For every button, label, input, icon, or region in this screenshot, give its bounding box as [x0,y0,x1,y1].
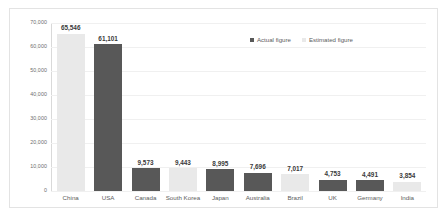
bar[interactable] [132,168,160,191]
bar-group-china: 65,546 [52,23,89,191]
bar-value-label: 4,491 [362,172,378,178]
legend-swatch-icon [302,38,306,42]
chart-container: 70,00060,00050,00040,00030,00020,00010,0… [9,8,438,208]
bar-value-label: 9,573 [138,160,154,166]
bar-value-label: 7,696 [250,164,266,170]
y-axis-tick-label: 0 [44,188,47,193]
bar-group-germany: 4,491 [351,23,388,191]
gridline [51,191,426,192]
bar-group-canada: 9,573 [127,23,164,191]
bar-series-group: 65,54661,1019,5739,4438,9957,6967,0174,7… [52,23,426,191]
bar-group-uk: 4,753 [314,23,351,191]
bar-group-japan: 8,995 [202,23,239,191]
legend-item-actual[interactable]: Actual figure [250,37,291,43]
bar-group-south-korea: 9,443 [164,23,201,191]
x-axis-label-usa: USA [89,195,126,201]
x-axis-label-uk: UK [314,195,351,201]
bar-value-label: 65,546 [61,25,81,31]
legend-swatch-icon [250,38,254,42]
x-axis-label-brazil: Brazil [276,195,313,201]
x-axis-category-labels: ChinaUSACanadaSouth KoreaJapanAustraliaB… [52,195,426,201]
bar[interactable] [319,180,347,191]
bar-value-label: 3,854 [399,173,415,179]
y-axis-tick-label: 70,000 [30,20,47,25]
y-axis-tick-label: 10,000 [30,164,47,169]
y-axis-tick-label: 20,000 [30,140,47,145]
x-axis-label-south-korea: South Korea [164,195,201,201]
bar[interactable] [206,169,234,191]
legend-item-estimated[interactable]: Estimated figure [302,37,353,43]
y-axis-tick-labels: 70,00060,00050,00040,00030,00020,00010,0… [10,23,47,191]
y-axis-tick-label: 60,000 [30,44,47,49]
bar[interactable] [281,174,309,191]
y-axis-tick-label: 50,000 [30,68,47,73]
legend-label: Actual figure [257,37,291,43]
chart-legend: Actual figureEstimated figure [250,37,353,43]
x-axis-label-japan: Japan [202,195,239,201]
y-axis-tick-label: 30,000 [30,116,47,121]
bar-value-label: 61,101 [98,36,118,42]
bar[interactable] [356,180,384,191]
bar-group-australia: 7,696 [239,23,276,191]
bar-value-label: 9,443 [175,160,191,166]
x-axis-label-china: China [52,195,89,201]
bar[interactable] [57,34,85,191]
bar-value-label: 8,995 [212,161,228,167]
x-axis-label-canada: Canada [127,195,164,201]
x-axis-label-australia: Australia [239,195,276,201]
bar[interactable] [244,173,272,191]
y-axis-tick-label: 40,000 [30,92,47,97]
bar[interactable] [169,168,197,191]
legend-label: Estimated figure [309,37,353,43]
bar-group-usa: 61,101 [89,23,126,191]
bar-value-label: 7,017 [287,166,303,172]
bar-value-label: 4,753 [325,171,341,177]
x-axis-label-india: India [389,195,426,201]
bar[interactable] [393,182,421,191]
x-axis-label-germany: Germany [351,195,388,201]
bar[interactable] [94,44,122,191]
bar-group-india: 3,854 [389,23,426,191]
bar-group-brazil: 7,017 [276,23,313,191]
